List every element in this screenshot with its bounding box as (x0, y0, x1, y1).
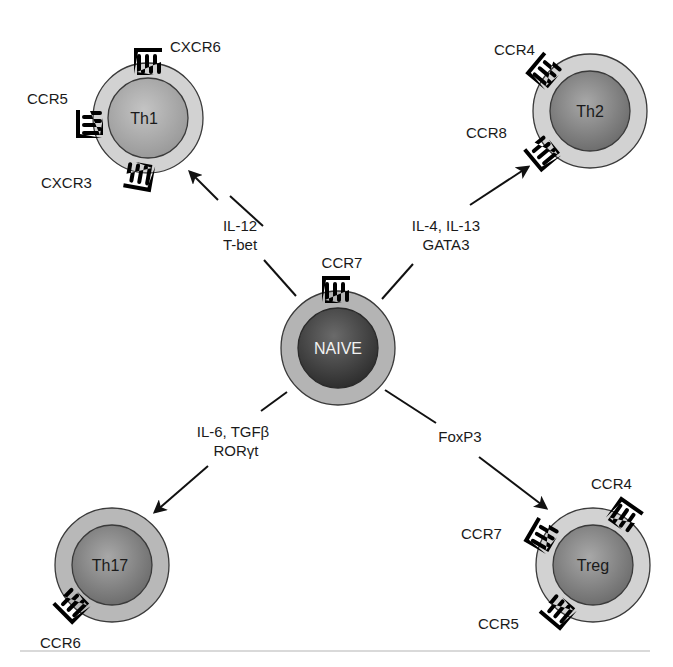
arrow-naive-to-treg (385, 390, 546, 508)
th1-receptor-cxcr6: CXCR6 (170, 38, 221, 55)
treg-label: Treg (577, 557, 609, 574)
cell-th2: Th2 (523, 52, 647, 173)
arrow-shaft (264, 260, 296, 296)
cell-th17: Th17 (52, 508, 169, 625)
th2-arrow-label-line2: GATA3 (423, 236, 470, 253)
treg-receptor-ccr5: CCR5 (478, 615, 519, 632)
th2-receptor-ccr4: CCR4 (494, 41, 535, 58)
arrow-head (190, 172, 218, 200)
th17-arrow-label-line1: IL-6, TGFβ (197, 423, 270, 440)
th1-receptor-cxcr3: CXCR3 (41, 174, 92, 191)
cell-naive: NAIVE (281, 276, 395, 405)
th1-label: Th1 (130, 110, 158, 127)
bottom-divider (20, 650, 650, 652)
t-cell-differentiation-diagram: IL-12 T-bet IL-4, IL-13 GATA3 IL-6, TGFβ… (0, 0, 673, 667)
th2-receptor-ccr8: CCR8 (466, 124, 507, 141)
arrow-naive-to-th1 (190, 172, 296, 296)
th1-arrow-label-line1: IL-12 (223, 217, 257, 234)
th1-arrow-label-line2: T-bet (223, 236, 258, 253)
arrow-head (479, 457, 546, 508)
arrow-head (155, 466, 208, 512)
cell-treg: Treg (523, 496, 650, 631)
th17-arrow-label-line2: RORγt (214, 442, 260, 459)
naive-label: NAIVE (314, 340, 362, 357)
treg-receptor-ccr7: CCR7 (461, 525, 502, 542)
arrow-shaft (261, 392, 287, 411)
naive-receptor-ccr7: CCR7 (322, 254, 363, 271)
arrow-head (470, 167, 528, 205)
th17-label: Th17 (92, 557, 129, 574)
th2-arrow-label-line1: IL-4, IL-13 (412, 217, 480, 234)
treg-receptor-ccr4: CCR4 (591, 475, 632, 492)
arrow-shaft (385, 390, 436, 423)
diagram-canvas: IL-12 T-bet IL-4, IL-13 GATA3 IL-6, TGFβ… (0, 0, 673, 667)
treg-arrow-label: FoxP3 (438, 428, 481, 445)
cell-th1: Th1 (76, 48, 203, 192)
arrow-shaft (382, 264, 413, 299)
th2-label: Th2 (576, 103, 604, 120)
th1-receptor-ccr5: CCR5 (27, 90, 68, 107)
th17-receptor-ccr6: CCR6 (40, 634, 81, 651)
